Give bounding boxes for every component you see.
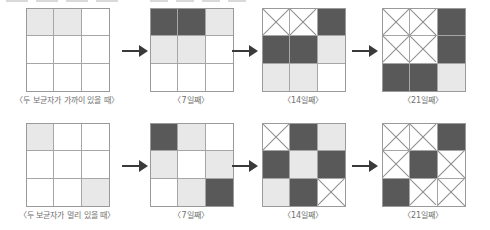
grid-cell-cross xyxy=(383,151,410,178)
grid-cell-dark xyxy=(383,64,410,91)
stage-grid xyxy=(262,8,346,92)
infection-spread-diagram: 〈두 보균자가 가까이 있을 때〉〈7일째〉〈14일째〉〈21일째〉 〈두 보균… xyxy=(0,0,490,230)
stage-caption: 〈14일째〉 xyxy=(283,96,323,106)
stage-caption: 〈두 보균자가 가까이 있을 때〉 xyxy=(15,96,118,106)
grid-cell-white xyxy=(206,124,233,151)
grid-cell-light xyxy=(27,9,54,36)
grid-cell-light xyxy=(178,124,205,151)
grid-cell-light xyxy=(438,64,465,91)
grid-cell-white xyxy=(151,64,178,91)
stage-grid xyxy=(26,8,110,92)
arrow-right-icon xyxy=(352,44,378,58)
infection-grid xyxy=(382,8,466,92)
grid-cell-light xyxy=(178,36,205,63)
infection-grid xyxy=(382,123,466,207)
grid-cell-light xyxy=(290,151,317,178)
grid-cell-cross xyxy=(438,179,465,206)
grid-cell-light xyxy=(27,124,54,151)
grid-cell-white xyxy=(82,36,109,63)
grid-cell-dark xyxy=(206,179,233,206)
infection-grid xyxy=(150,123,234,207)
diagram-row-far: 〈두 보균자가 멀리 있을 때〉〈7일째〉〈14일째〉〈21일째〉 xyxy=(0,115,490,230)
grid-cell-light xyxy=(178,179,205,206)
grid-cell-white xyxy=(151,179,178,206)
stage-grid xyxy=(262,123,346,207)
stage-caption: 〈두 보균자가 멀리 있을 때〉 xyxy=(19,211,115,221)
grid-cell-cross xyxy=(410,36,437,63)
grid-cell-cross xyxy=(383,9,410,36)
grid-cell-light xyxy=(151,36,178,63)
stage-caption: 〈21일째〉 xyxy=(403,96,443,106)
stage-grid xyxy=(382,8,466,92)
grid-cell-dark xyxy=(438,9,465,36)
grid-cell-white xyxy=(318,64,345,91)
grid-cell-cross xyxy=(410,124,437,151)
grid-cell-dark xyxy=(151,9,178,36)
arrow-right-icon xyxy=(232,159,258,173)
infection-grid xyxy=(26,8,110,92)
grid-cell-cross xyxy=(383,36,410,63)
diagram-row-near: 〈두 보균자가 가까이 있을 때〉〈7일째〉〈14일째〉〈21일째〉 xyxy=(0,0,490,115)
infection-grid xyxy=(262,123,346,207)
grid-cell-white xyxy=(82,124,109,151)
infection-grid xyxy=(150,8,234,92)
grid-cell-cross xyxy=(438,151,465,178)
grid-cell-dark xyxy=(410,64,437,91)
grid-cell-dark xyxy=(410,151,437,178)
grid-cell-white xyxy=(54,36,81,63)
grid-cell-dark xyxy=(438,36,465,63)
grid-cell-light xyxy=(318,124,345,151)
grid-cell-white xyxy=(178,64,205,91)
arrow-right-icon xyxy=(352,159,378,173)
arrow-right-icon xyxy=(122,159,148,173)
grid-cell-cross xyxy=(263,124,290,151)
grid-cell-white xyxy=(27,64,54,91)
grid-cell-cross xyxy=(263,9,290,36)
grid-cell-light xyxy=(206,9,233,36)
grid-cell-white xyxy=(82,151,109,178)
grid-cell-light xyxy=(290,64,317,91)
grid-cell-dark xyxy=(290,36,317,63)
grid-cell-white xyxy=(27,36,54,63)
arrow-right-icon xyxy=(232,44,258,58)
stage-grid xyxy=(150,123,234,207)
grid-cell-dark xyxy=(318,151,345,178)
grid-cell-light xyxy=(263,64,290,91)
grid-cell-dark xyxy=(178,9,205,36)
grid-cell-white xyxy=(54,124,81,151)
grid-cell-light xyxy=(151,151,178,178)
arrow-right-icon xyxy=(122,44,148,58)
grid-cell-dark xyxy=(290,179,317,206)
stage-caption: 〈7일째〉 xyxy=(173,211,208,221)
grid-cell-white xyxy=(82,9,109,36)
grid-cell-light xyxy=(54,9,81,36)
grid-cell-white xyxy=(206,64,233,91)
grid-cell-light xyxy=(263,179,290,206)
stage-grid xyxy=(382,123,466,207)
grid-cell-cross xyxy=(410,9,437,36)
grid-cell-white xyxy=(54,64,81,91)
stage-grid xyxy=(26,123,110,207)
grid-cell-light xyxy=(206,151,233,178)
grid-cell-cross xyxy=(290,9,317,36)
grid-cell-cross xyxy=(318,179,345,206)
grid-cell-light xyxy=(318,36,345,63)
grid-cell-dark xyxy=(151,124,178,151)
grid-cell-white xyxy=(27,151,54,178)
grid-cell-white xyxy=(178,151,205,178)
stage-caption: 〈7일째〉 xyxy=(173,96,208,106)
infection-grid xyxy=(262,8,346,92)
grid-cell-dark xyxy=(318,9,345,36)
stage-grid xyxy=(150,8,234,92)
grid-cell-dark xyxy=(263,151,290,178)
stage-caption: 〈14일째〉 xyxy=(283,211,323,221)
grid-cell-cross xyxy=(383,124,410,151)
grid-cell-white xyxy=(54,179,81,206)
grid-cell-dark xyxy=(263,36,290,63)
grid-cell-light xyxy=(82,179,109,206)
grid-cell-cross xyxy=(410,179,437,206)
grid-cell-dark xyxy=(290,124,317,151)
stage-caption: 〈21일째〉 xyxy=(403,211,443,221)
grid-cell-dark xyxy=(438,124,465,151)
grid-cell-white xyxy=(82,64,109,91)
